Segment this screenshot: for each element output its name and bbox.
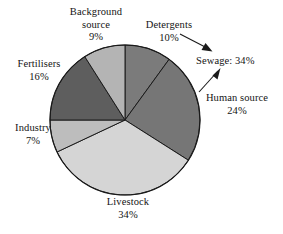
slice-label-background-source-line1: Background <box>58 6 134 19</box>
slice-label-industry: Industry 7% <box>2 122 64 147</box>
slice-label-background-source: Background source 9% <box>58 6 134 44</box>
slice-label-human-source: Human source 24% <box>193 92 281 117</box>
slice-label-livestock-line1: Livestock <box>88 196 168 209</box>
slice-value-human-source: 24% <box>193 105 281 118</box>
pie-slice-group <box>50 45 200 195</box>
slice-label-background-source-line2: source <box>58 19 134 32</box>
slice-value-background-source: 9% <box>58 31 134 44</box>
slice-label-detergents-line1: Detergents <box>133 19 205 32</box>
slice-label-industry-line1: Industry <box>2 122 64 135</box>
slice-value-detergents: 10% <box>133 32 205 45</box>
slice-value-fertilisers: 16% <box>6 71 72 84</box>
slice-label-fertilisers: Fertilisers 16% <box>6 58 72 83</box>
slice-label-human-source-line1: Human source <box>193 92 281 105</box>
slice-label-detergents: Detergents 10% <box>133 19 205 44</box>
slice-label-fertilisers-line1: Fertilisers <box>6 58 72 71</box>
slice-label-livestock: Livestock 34% <box>88 196 168 221</box>
slice-value-industry: 7% <box>2 135 64 148</box>
annotation-arrow-human-source-to-sewage <box>199 68 221 92</box>
annotation-label-sewage: Sewage: 34% <box>196 55 280 68</box>
slice-value-livestock: 34% <box>88 209 168 222</box>
annotation-label-sewage-text: Sewage: 34% <box>196 55 280 68</box>
pie-chart-figure: Background source 9% Detergents 10% Sewa… <box>0 0 283 234</box>
